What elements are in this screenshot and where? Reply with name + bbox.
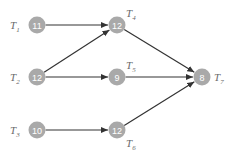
node-t7: 8T7 <box>194 69 225 86</box>
node-t1: 11T1 <box>10 17 46 34</box>
node-label: T3 <box>10 124 20 139</box>
node-t4: 12T4 <box>109 7 137 34</box>
node-t5: 9T5 <box>109 59 137 86</box>
node-t6: 12T6 <box>109 122 137 152</box>
node-value: 11 <box>32 21 41 31</box>
node-label: T5 <box>126 59 136 74</box>
node-value: 12 <box>112 126 122 136</box>
node-label: T4 <box>126 7 136 22</box>
node-t3: 10T3 <box>10 122 46 139</box>
node-label: T1 <box>10 19 20 34</box>
node-t2: 12T2 <box>10 69 46 86</box>
node-label: T7 <box>214 71 224 86</box>
task-graph: 11T112T412T29T58T710T312T6 <box>0 0 239 162</box>
node-value: 12 <box>112 21 122 31</box>
node-value: 8 <box>199 73 204 83</box>
edge-t6-to-t7 <box>124 82 194 126</box>
node-label: T6 <box>126 137 136 152</box>
nodes-layer: 11T112T412T29T58T710T312T6 <box>10 7 224 152</box>
node-label: T2 <box>10 71 20 86</box>
edge-t2-to-t4 <box>44 30 109 72</box>
node-value: 12 <box>32 73 42 83</box>
node-value: 9 <box>114 73 119 83</box>
node-value: 10 <box>32 126 42 136</box>
